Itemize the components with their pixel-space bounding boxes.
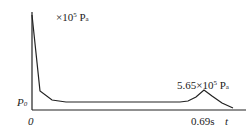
pressure-curve <box>32 15 233 108</box>
origin-label: 0 <box>28 116 34 127</box>
y-tick-p0: P0 <box>17 97 27 110</box>
peak-annotation: 5.65×105 Pa <box>177 80 229 93</box>
x-axis-label: t <box>225 116 228 127</box>
unit-label: ×105 Pa <box>56 12 89 25</box>
x-tick-069: 0.69s <box>191 116 215 127</box>
